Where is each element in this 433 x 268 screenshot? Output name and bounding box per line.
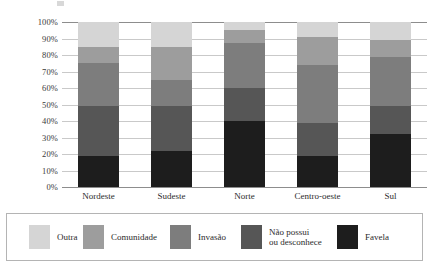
bar-segment (78, 156, 119, 187)
bar-column (151, 22, 192, 187)
bar-segment (78, 47, 119, 64)
legend-swatch (241, 225, 262, 249)
y-axis: 100%90%80%70%60%50%40%30%20%10%0% (0, 0, 62, 205)
bar-segment (78, 63, 119, 106)
bar-segment (151, 106, 192, 151)
bar-segment (297, 156, 338, 187)
legend-swatch (83, 225, 104, 249)
bar-column (78, 22, 119, 187)
bar-segment (151, 151, 192, 187)
legend-label: Não possui ou desconhece (269, 227, 322, 248)
bars-layer (62, 22, 427, 187)
bar-segment (370, 40, 411, 57)
bar-segment (224, 30, 265, 43)
legend-swatch (29, 225, 50, 249)
bar-stack (297, 22, 338, 187)
legend-item[interactable]: Outra (29, 222, 78, 252)
y-axis-tick-label: 60% (42, 84, 58, 93)
legend: OutraComunidadeInvasãoNão possui ou desc… (6, 213, 423, 261)
y-axis-tick-label: 40% (42, 117, 58, 126)
y-axis-tick-label: 70% (42, 67, 58, 76)
plot-area: 100%90%80%70%60%50%40%30%20%10%0% Nordes… (0, 0, 433, 205)
y-axis-tick-label: 30% (42, 133, 58, 142)
bar-segment (370, 22, 411, 40)
y-axis-tick-label: 100% (38, 18, 58, 27)
bar-segment (297, 37, 338, 65)
bar-segment (370, 106, 411, 134)
y-axis-tick-label: 90% (42, 34, 58, 43)
x-axis-label: Sul (384, 190, 396, 202)
legend-item[interactable]: Comunidade (83, 222, 157, 252)
legend-swatch (337, 225, 358, 249)
y-axis-tick-label: 0% (46, 183, 58, 192)
bar-segment (78, 22, 119, 47)
bar-segment (297, 123, 338, 156)
bar-stack (78, 22, 119, 187)
stacked-bar-chart: 100%90%80%70%60%50%40%30%20%10%0% Nordes… (0, 0, 433, 268)
legend-label: Comunidade (111, 232, 157, 243)
bar-segment (224, 43, 265, 88)
bar-column (370, 22, 411, 187)
bar-segment (370, 57, 411, 107)
legend-item[interactable]: Não possui ou desconhece (241, 222, 322, 252)
bar-segment (224, 22, 265, 30)
bar-column (224, 22, 265, 187)
y-axis-tick-label: 50% (42, 100, 58, 109)
x-axis-label: Centro-oeste (295, 190, 341, 202)
legend-label: Invasão (198, 232, 226, 243)
bar-segment (151, 47, 192, 80)
bar-segment (78, 106, 119, 156)
legend-item[interactable]: Invasão (170, 222, 226, 252)
bar-stack (370, 22, 411, 187)
y-axis-tick-label: 80% (42, 51, 58, 60)
x-axis-label: Nordeste (82, 190, 115, 202)
bar-segment (151, 80, 192, 106)
bar-segment (297, 65, 338, 123)
bar-stack (224, 22, 265, 187)
x-axis-label: Norte (234, 190, 255, 202)
y-axis-tick-label: 20% (42, 150, 58, 159)
bar-column (297, 22, 338, 187)
bar-segment (224, 88, 265, 121)
bar-segment (151, 22, 192, 47)
y-axis-tick-label: 10% (42, 166, 58, 175)
legend-label: Favela (365, 232, 389, 243)
bar-segment (297, 22, 338, 37)
bar-stack (151, 22, 192, 187)
x-axis-label: Sudeste (158, 190, 186, 202)
bar-segment (224, 121, 265, 187)
legend-label: Outra (57, 232, 78, 243)
legend-swatch (170, 225, 191, 249)
gridline (62, 187, 427, 188)
legend-item[interactable]: Favela (337, 222, 389, 252)
bar-segment (370, 134, 411, 187)
x-axis-labels: NordesteSudesteNorteCentro-oesteSul (62, 190, 427, 205)
